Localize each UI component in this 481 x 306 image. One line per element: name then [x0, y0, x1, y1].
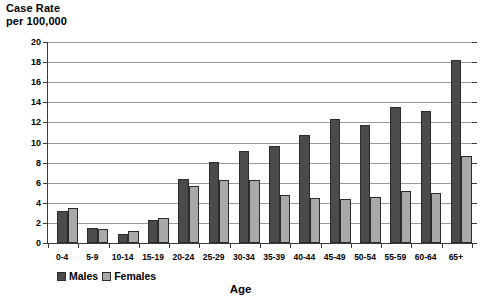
- x-axis-tick: [290, 243, 291, 248]
- bar-males: [269, 146, 279, 243]
- bar-females: [219, 180, 229, 243]
- bar-chart: Case Rate per 100,000 02468101214161820 …: [0, 0, 481, 306]
- y-axis-tick-label: 16: [31, 77, 41, 87]
- bar-females: [68, 208, 78, 243]
- x-axis-tick-label: 0-4: [56, 252, 68, 262]
- x-axis-tick-label: 65+: [449, 252, 463, 262]
- bar-group: [230, 42, 260, 243]
- bar-females: [370, 197, 380, 243]
- bar-males: [118, 234, 128, 243]
- bar-group: [442, 42, 472, 243]
- x-axis-tick: [78, 243, 79, 248]
- x-axis-tick: [351, 243, 352, 248]
- bar-males: [178, 179, 188, 243]
- x-axis-tick-label: 40-44: [294, 252, 316, 262]
- bar-group: [381, 42, 411, 243]
- bar-group: [199, 42, 229, 243]
- x-axis-tick: [109, 243, 110, 248]
- bar-females: [401, 191, 411, 243]
- x-axis-tick: [442, 243, 443, 248]
- y-axis-tick-right: [472, 183, 477, 184]
- x-axis-tick-label: 5-9: [86, 252, 98, 262]
- legend-swatch-males-icon: [57, 272, 66, 281]
- plot-area: 02468101214161820: [47, 42, 472, 244]
- chart-legend: Males Females: [57, 270, 156, 282]
- x-axis-tick-label: 60-64: [415, 252, 437, 262]
- bar-females: [310, 198, 320, 243]
- bar-females: [98, 229, 108, 243]
- y-axis-title: Case Rate per 100,000: [6, 2, 67, 28]
- x-axis-tick-label: 15-19: [142, 252, 164, 262]
- bar-group: [109, 42, 139, 243]
- bar-females: [189, 186, 199, 243]
- bar-males: [451, 60, 461, 243]
- bar-females: [158, 218, 168, 243]
- bar-group: [48, 42, 78, 243]
- bar-group: [169, 42, 199, 243]
- y-axis-tick-label: 0: [36, 238, 41, 248]
- bar-females: [431, 193, 441, 243]
- x-axis-tick: [199, 243, 200, 248]
- y-axis-tick-right: [472, 223, 477, 224]
- x-axis-tick: [411, 243, 412, 248]
- x-axis-tick: [169, 243, 170, 248]
- bar-group: [260, 42, 290, 243]
- y-axis-tick-label: 4: [36, 198, 41, 208]
- x-axis-tick-label: 45-49: [324, 252, 346, 262]
- bar-females: [340, 199, 350, 243]
- bar-group: [290, 42, 320, 243]
- y-axis-tick-label: 20: [31, 37, 41, 47]
- y-axis-tick-label: 8: [36, 158, 41, 168]
- bar-males: [148, 220, 158, 243]
- bar-males: [57, 211, 67, 243]
- x-axis-tick-label: 25-29: [203, 252, 225, 262]
- y-axis-tick-label: 6: [36, 178, 41, 188]
- bar-males: [87, 228, 97, 243]
- bar-group: [351, 42, 381, 243]
- bar-group: [78, 42, 108, 243]
- y-axis-tick-right: [472, 122, 477, 123]
- bar-males: [239, 151, 249, 243]
- y-axis-tick-right: [472, 82, 477, 83]
- x-axis-tick-label: 10-14: [112, 252, 134, 262]
- x-axis-tick-label: 55-59: [384, 252, 406, 262]
- x-axis-tick-label: 20-24: [172, 252, 194, 262]
- bar-males: [390, 107, 400, 243]
- y-axis-tick-label: 18: [31, 57, 41, 67]
- y-axis-tick-right: [472, 42, 477, 43]
- x-axis-title: Age: [0, 283, 481, 295]
- y-axis-tick-right: [472, 62, 477, 63]
- y-axis-tick-label: 14: [31, 97, 41, 107]
- x-axis-tick: [48, 243, 49, 248]
- bar-group: [321, 42, 351, 243]
- y-axis-tick-right: [472, 102, 477, 103]
- bar-males: [209, 162, 219, 243]
- x-axis-tick: [381, 243, 382, 248]
- x-axis-tick: [139, 243, 140, 248]
- x-axis-tick: [230, 243, 231, 248]
- bar-males: [360, 125, 370, 243]
- legend-label-males: Males: [69, 270, 98, 282]
- x-axis-tick: [321, 243, 322, 248]
- legend-item-males: Males: [57, 270, 98, 282]
- y-axis-tick-right: [472, 143, 477, 144]
- bar-females: [280, 195, 290, 243]
- x-axis-labels: 0-45-910-1415-1920-2425-2930-3435-3940-4…: [47, 252, 471, 266]
- legend-swatch-females-icon: [102, 272, 111, 281]
- bar-group: [411, 42, 441, 243]
- y-axis-tick-label: 12: [31, 117, 41, 127]
- y-axis-tick-right: [472, 163, 477, 164]
- y-axis-tick-label: 2: [36, 218, 41, 228]
- x-axis-tick-label: 35-39: [263, 252, 285, 262]
- x-axis-tick-label: 30-34: [233, 252, 255, 262]
- bar-females: [249, 180, 259, 243]
- y-axis-tick-label: 10: [31, 138, 41, 148]
- bar-females: [128, 231, 138, 243]
- bar-males: [421, 111, 431, 243]
- legend-item-females: Females: [102, 270, 156, 282]
- bar-group: [139, 42, 169, 243]
- legend-label-females: Females: [114, 270, 156, 282]
- x-axis-tick-label: 50-54: [354, 252, 376, 262]
- y-axis-tick-right: [472, 203, 477, 204]
- bar-males: [330, 119, 340, 243]
